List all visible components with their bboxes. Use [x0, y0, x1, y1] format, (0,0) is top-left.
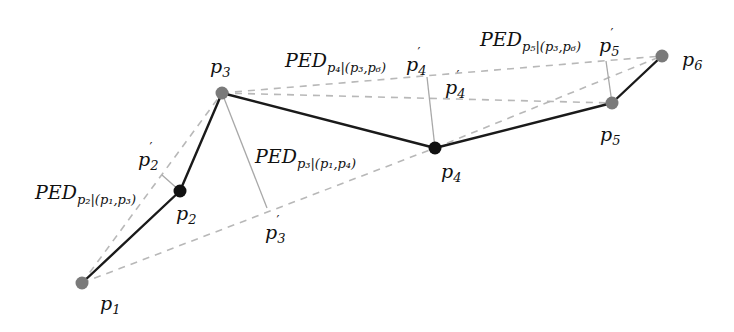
trajectory-points [76, 50, 669, 290]
trajectory-segment-p4-p5 [435, 103, 612, 148]
point-p2 [174, 185, 187, 198]
label-p4: p4 [441, 160, 461, 185]
dashed-reference-lines [82, 56, 662, 283]
ped-trajectory-diagram: p1p2p3p4p5p6p2′p3′p4′p4′p5′PEDp₂|(p₁,p₃)… [0, 0, 734, 332]
point-p3 [216, 87, 229, 100]
trajectory-segment-p5-p6 [612, 56, 662, 103]
label-ped-p4: PEDp₄|(p₃,p₆) [284, 49, 386, 75]
dashed-line-p3-p5 [222, 93, 612, 103]
labels: p1p2p3p4p5p6p2′p3′p4′p4′p5′PEDp₂|(p₁,p₃)… [34, 26, 702, 317]
label-p2prime: p2′ [138, 140, 158, 173]
perpendicular-line-p4 [427, 77, 435, 148]
dashed-line-p4-p6 [435, 56, 662, 148]
point-p6 [656, 50, 669, 63]
label-ped-p3: PEDp₃|(p₁,p₄) [254, 145, 356, 171]
label-p6: p6 [682, 48, 702, 73]
label-p3: p3 [210, 55, 230, 80]
point-p5 [606, 97, 619, 110]
point-p1 [76, 277, 89, 290]
label-p5: p5 [600, 123, 620, 148]
label-p5prime: p5′ [599, 26, 619, 59]
trajectory-segment-p3-p4 [222, 93, 435, 148]
label-ped-p2: PEDp₂|(p₁,p₃) [34, 181, 136, 207]
label-p4prime: p4′ [406, 45, 426, 78]
label-p2: p2 [176, 202, 196, 227]
dashed-line-p1-p4 [82, 148, 435, 283]
point-p4 [429, 142, 442, 155]
label-p3prime: p3′ [265, 213, 285, 246]
dashed-line-p1-p3 [82, 93, 222, 283]
label-p1: p1 [100, 292, 120, 317]
label-ped-p5: PEDp₅|(p₃,p₆) [479, 28, 581, 54]
